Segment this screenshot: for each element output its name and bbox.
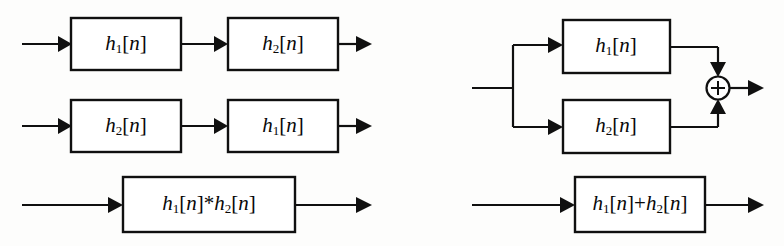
arrow-head-icon xyxy=(214,36,228,52)
arrow-head-icon xyxy=(548,37,563,53)
block-h1-label: h1[n] xyxy=(105,31,147,56)
arrow-head-icon xyxy=(710,99,726,114)
arrow-head-icon xyxy=(748,80,764,96)
sum-row: h1[n]+h2[n] xyxy=(472,177,764,232)
arrow-head-icon xyxy=(748,197,764,213)
convolution-row: h1[n]*h2[n] xyxy=(22,177,372,232)
block-h2-label: h2[n] xyxy=(105,113,147,138)
arrow-head-icon xyxy=(710,62,726,77)
arrow-head-icon xyxy=(560,197,575,213)
arrow-head-icon xyxy=(356,197,372,213)
cascade-row-1: h1[n] h2[n] xyxy=(22,18,372,70)
cascade-row-2: h2[n] h1[n] xyxy=(22,100,372,152)
arrow-head-icon xyxy=(356,36,372,52)
parallel-row: h1[n] h2[n] xyxy=(472,20,764,153)
figure-root: h1[n] h2[n] h2[n] h1[n] xyxy=(0,0,784,246)
block-h1-label: h1[n] xyxy=(262,113,304,138)
block-h1-label: h1[n] xyxy=(595,33,637,58)
block-h2-label: h2[n] xyxy=(595,113,637,138)
block-diagram-canvas: h1[n] h2[n] h2[n] h1[n] xyxy=(0,0,784,246)
arrow-head-icon xyxy=(108,197,123,213)
arrow-head-icon xyxy=(356,118,372,134)
arrow-head-icon xyxy=(214,118,228,134)
arrow-head-icon xyxy=(548,119,563,135)
block-h2-label: h2[n] xyxy=(262,31,304,56)
